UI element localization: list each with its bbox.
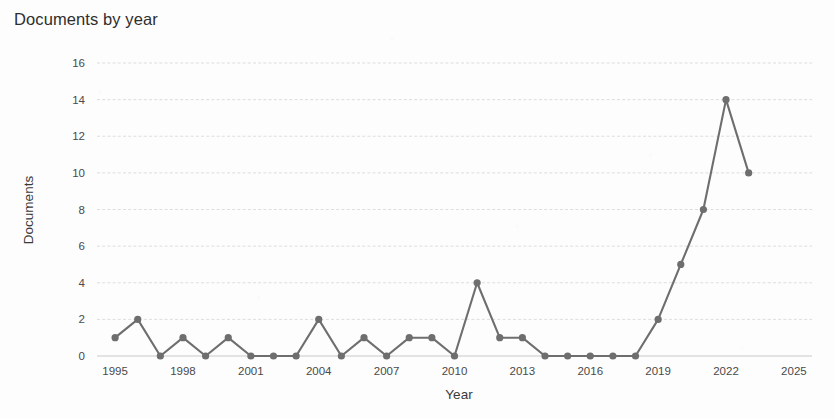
- x-tick-label: 2007: [374, 365, 400, 377]
- data-point: [632, 352, 639, 359]
- data-point: [451, 352, 458, 359]
- data-point: [677, 261, 684, 268]
- x-tick-label: 2013: [510, 365, 536, 377]
- data-point: [360, 334, 367, 341]
- data-point: [496, 334, 503, 341]
- series-markers: [112, 96, 753, 360]
- data-point: [745, 169, 752, 176]
- x-tick-label: 2010: [442, 365, 468, 377]
- x-tick-label: 1995: [102, 365, 128, 377]
- x-tick-label: 2022: [713, 365, 739, 377]
- data-point: [700, 206, 707, 213]
- x-tick-label: 2025: [781, 365, 807, 377]
- data-point: [383, 352, 390, 359]
- series-line-documents: [115, 100, 749, 356]
- x-tick-label: 2004: [306, 365, 332, 377]
- data-point: [315, 316, 322, 323]
- data-point: [587, 352, 594, 359]
- y-axis-title: Documents: [21, 176, 36, 245]
- data-point: [406, 334, 413, 341]
- x-tick-label: 2019: [645, 365, 671, 377]
- data-point: [179, 334, 186, 341]
- data-point: [225, 334, 232, 341]
- y-tick-label: 4: [79, 277, 86, 289]
- chart-container: Documents by year 0246810121416 19951998…: [0, 0, 834, 419]
- data-point: [247, 352, 254, 359]
- data-point: [541, 352, 548, 359]
- y-tick-label: 10: [72, 167, 85, 179]
- y-tick-label: 6: [79, 240, 85, 252]
- line-chart-plot: 0246810121416 19951998200120042007201020…: [0, 0, 834, 419]
- y-tick-label: 14: [72, 94, 85, 106]
- x-axis-ticks: 1995199820012004200720102013201620192022…: [102, 365, 806, 377]
- data-point: [112, 334, 119, 341]
- data-point: [338, 352, 345, 359]
- y-tick-label: 2: [79, 313, 85, 325]
- y-tick-label: 16: [72, 57, 85, 69]
- data-point: [564, 352, 571, 359]
- data-point: [134, 316, 141, 323]
- x-tick-label: 2016: [577, 365, 603, 377]
- y-tick-label: 12: [72, 130, 85, 142]
- x-axis-title: Year: [445, 387, 473, 402]
- data-point: [428, 334, 435, 341]
- data-point: [270, 352, 277, 359]
- x-tick-label: 2001: [238, 365, 264, 377]
- x-tick-label: 1998: [170, 365, 196, 377]
- data-point: [722, 96, 729, 103]
- data-point: [293, 352, 300, 359]
- y-tick-label: 0: [79, 350, 85, 362]
- y-axis-ticks: 0246810121416: [72, 57, 85, 362]
- data-point: [202, 352, 209, 359]
- data-point: [474, 279, 481, 286]
- data-point: [609, 352, 616, 359]
- data-point: [655, 316, 662, 323]
- data-point: [157, 352, 164, 359]
- data-point: [519, 334, 526, 341]
- y-tick-label: 8: [79, 204, 85, 216]
